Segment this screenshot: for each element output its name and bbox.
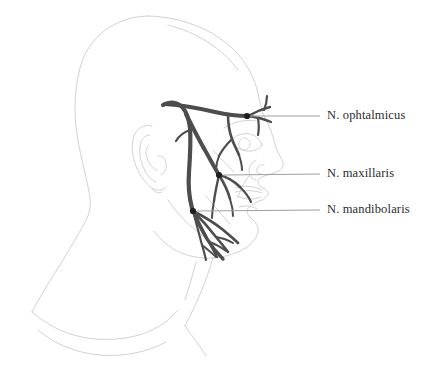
marker-dot-maxillaris [216, 172, 222, 178]
label-n-maxillaris: N. maxillaris [327, 167, 394, 180]
maxillary-branch-5 [230, 199, 233, 216]
chest-line [185, 326, 206, 356]
ophthalmic-descending-2 [219, 139, 232, 156]
mandibular-trunk-lower [192, 208, 223, 259]
head-outline [75, 16, 148, 224]
ear-antihelix [140, 135, 156, 182]
ear-tragus [158, 156, 166, 175]
label-n-mandibolaris: N. mandibolaris [327, 203, 410, 216]
maxillary-branch-4 [240, 187, 251, 202]
brow-outline [259, 99, 263, 114]
marker-dot-mandibolaris [190, 208, 196, 214]
shoulder-outline [32, 310, 178, 339]
ophthalmic-branch-4 [258, 118, 259, 135]
throat-line [185, 262, 196, 300]
maxillary-branch-3 [214, 175, 219, 201]
ophthalmic-descending [228, 114, 239, 155]
label-n-ophtalmicus: N. ophtalmicus [327, 109, 405, 122]
leader-line-mandibolaris [197, 210, 320, 211]
neck-front [185, 258, 213, 326]
forehead-outline [148, 16, 259, 99]
leader-line-maxillaris [223, 174, 320, 175]
ophthalmic-descending-3 [239, 155, 242, 170]
shoulder-lower [38, 330, 166, 355]
ear-concha [146, 145, 157, 170]
marker-dot-ophtalmicus [244, 113, 250, 119]
ophthalmic-stem [165, 104, 248, 116]
nostril [257, 165, 264, 174]
auriculotemporal-twig [176, 130, 190, 141]
nose-ala [249, 160, 256, 180]
nape-outline [32, 224, 84, 312]
eye-iris [239, 138, 250, 150]
anatomical-figure: N. ophtalmicus N. maxillaris N. mandibol… [0, 0, 436, 378]
head-anatomy-illustration [0, 0, 436, 378]
hairline [168, 25, 238, 70]
ophthalmic-branch-1 [248, 107, 270, 116]
